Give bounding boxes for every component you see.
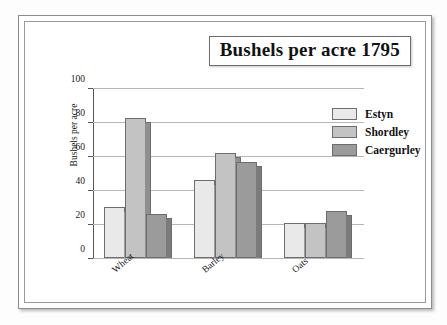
- y-tick-label: 100: [71, 74, 85, 84]
- chart-frame-inner: Bushels per acre 1795 Bushels per acre 0…: [24, 21, 426, 303]
- y-tick-mark: [88, 122, 93, 123]
- legend-swatch-icon-0: [332, 108, 357, 120]
- y-tick-mark: [88, 156, 93, 157]
- bar-estyn-oats[interactable]: [284, 223, 305, 258]
- y-tick-label: 20: [76, 210, 86, 220]
- legend-item-1[interactable]: Shordley: [332, 124, 421, 140]
- plot-area: 020406080100 WheatBarleyOats: [93, 89, 364, 259]
- legend-item-2[interactable]: Caergurley: [332, 142, 421, 158]
- y-tick-label: 60: [76, 142, 86, 152]
- bar-estyn-wheat[interactable]: [104, 207, 125, 258]
- bar-shordley-wheat[interactable]: [125, 118, 146, 258]
- bar-estyn-barley[interactable]: [194, 180, 215, 258]
- bar-caergurley-oats[interactable]: [326, 211, 347, 258]
- plot-wrapper: Bushels per acre 020406080100 WheatBarle…: [25, 22, 425, 302]
- bar-shadow: [256, 166, 262, 258]
- chart-frame-outer: Bushels per acre 1795 Bushels per acre 0…: [18, 15, 432, 309]
- legend-label-2: Caergurley: [365, 144, 421, 156]
- legend-label-1: Shordley: [365, 126, 409, 138]
- bar-shordley-oats[interactable]: [305, 223, 326, 258]
- y-tick-label: 80: [76, 108, 86, 118]
- bar-shordley-barley[interactable]: [215, 153, 236, 258]
- bar-group: Wheat: [94, 89, 184, 258]
- bar-caergurley-barley[interactable]: [236, 162, 257, 258]
- legend-label-0: Estyn: [365, 108, 393, 120]
- bar-group: Barley: [184, 89, 274, 258]
- legend-item-0[interactable]: Estyn: [332, 106, 421, 122]
- y-axis-title: Bushels per acre: [69, 80, 79, 190]
- bar-shadow: [346, 215, 352, 258]
- y-tick-label: 40: [76, 176, 86, 186]
- y-tick-label: 0: [80, 244, 85, 254]
- bar-caergurley-wheat[interactable]: [146, 214, 167, 258]
- y-tick-mark: [88, 190, 93, 191]
- bar-shadow: [166, 218, 172, 258]
- legend-swatch-icon-1: [332, 126, 357, 138]
- y-tick-mark: [88, 88, 93, 89]
- legend-swatch-icon-2: [332, 144, 357, 156]
- y-tick-mark: [88, 258, 93, 259]
- chart-page: Bushels per acre 1795 Bushels per acre 0…: [0, 0, 447, 325]
- legend: Estyn Shordley Caergurley: [332, 106, 421, 160]
- y-tick-mark: [88, 224, 93, 225]
- bar-groups: WheatBarleyOats: [94, 89, 364, 258]
